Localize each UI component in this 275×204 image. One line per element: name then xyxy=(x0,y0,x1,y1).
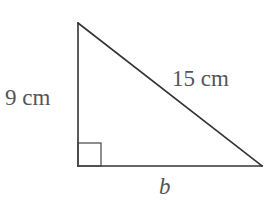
vertical-leg-label: 9 cm xyxy=(5,85,50,110)
right-triangle-diagram: 9 cm 15 cm b xyxy=(0,0,275,204)
base-label: b xyxy=(159,174,171,199)
right-angle-marker xyxy=(78,143,101,166)
hypotenuse-label: 15 cm xyxy=(172,66,229,91)
hypotenuse xyxy=(78,23,262,166)
